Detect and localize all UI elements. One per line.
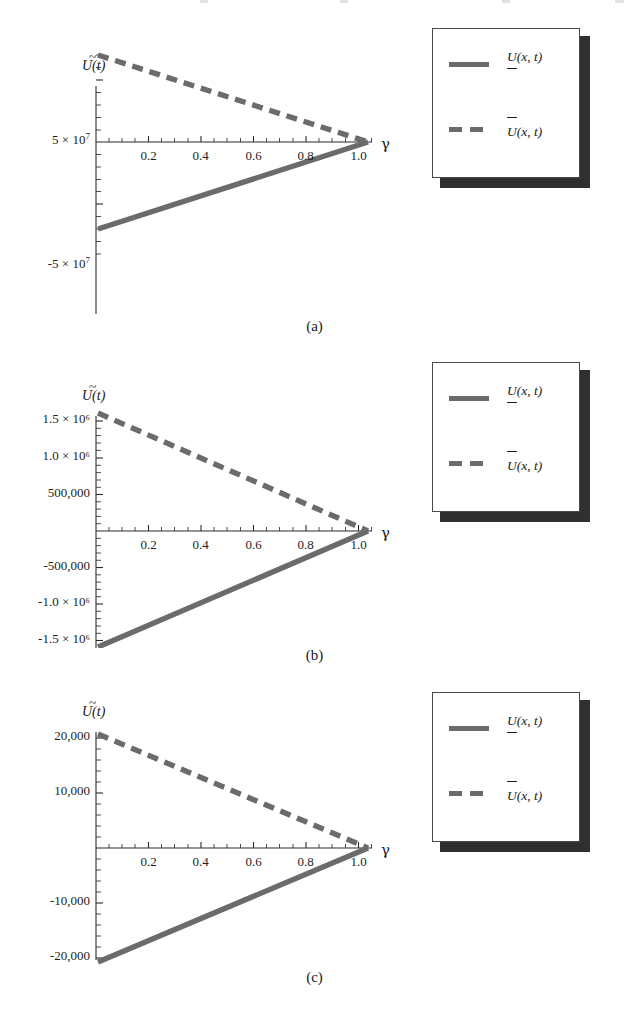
legend-row-solid: U(x, t) xyxy=(433,49,579,89)
y-tick-exponent: 7 xyxy=(85,255,90,265)
underline-accent xyxy=(507,68,517,69)
x-tick-label-a-2: 0.6 xyxy=(233,148,274,164)
y-tick-label-b-2: 500,000 xyxy=(0,485,90,501)
y-tick-label-a-1: -5 × 107 xyxy=(0,256,90,272)
x-axis-label-b: γ xyxy=(381,524,390,542)
panel-c: ~U(t) γ 20,000 10,000 -10,000 -20,000 0.… xyxy=(0,690,629,1010)
x-tick-label-c-1: 0.4 xyxy=(180,854,221,870)
scan-artifact xyxy=(340,0,348,3)
scan-artifact xyxy=(615,0,624,3)
x-major-ticks xyxy=(149,136,359,142)
legend-panel: U(x, t) U(x, t) xyxy=(432,692,580,842)
y-tick-mantissa: -5 × 10 xyxy=(48,256,86,271)
overline-accent xyxy=(507,451,517,452)
x-major-ticks xyxy=(149,525,359,531)
legend-c: U(x, t) U(x, t) xyxy=(432,692,582,844)
x-tick-label-b-4: 1.0 xyxy=(338,537,379,553)
legend-swatch-dashed-line xyxy=(449,791,489,796)
y-axis-label-b: ~U(t) xyxy=(82,388,105,404)
legend-label-upper: U(x, t) xyxy=(507,458,542,474)
y-tick-label-b-0: 1.5 × 10⁶ xyxy=(0,411,90,427)
legend-row-dashed: U(x, t) xyxy=(433,114,579,154)
legend-row-solid: U(x, t) xyxy=(433,713,579,753)
x-tick-label-a-0: 0.2 xyxy=(128,148,169,164)
plot-area-b: ~U(t) γ 1.5 × 10⁶ 1.0 × 10⁶ 500,000 -500… xyxy=(0,358,420,648)
figure-page: ~U(t) γ 5 × 107 -5 × 107 0.2 0.4 0.6 0.8… xyxy=(0,0,629,1021)
y-tick-label-c-1: 10,000 xyxy=(0,783,90,799)
legend-label-upper-text: U(x, t) xyxy=(507,124,542,139)
series-upper-dashed xyxy=(98,55,368,142)
y-tick-label-b-3: -500,000 xyxy=(0,558,90,574)
legend-a: U(x, t) U(x, t) xyxy=(432,28,582,180)
legend-swatch-solid-line xyxy=(449,62,489,67)
legend-swatch-dashed-line xyxy=(449,127,489,132)
x-tick-label-c-4: 1.0 xyxy=(338,854,379,870)
x-tick-label-a-1: 0.4 xyxy=(180,148,221,164)
x-tick-label-c-2: 0.6 xyxy=(233,854,274,870)
legend-row-solid: U(x, t) xyxy=(433,383,579,423)
legend-swatch-dashed-line xyxy=(449,461,489,466)
panel-caption-a: (a) xyxy=(0,318,629,335)
legend-label-upper: U(x, t) xyxy=(507,788,542,804)
x-axis-label-c: γ xyxy=(381,841,390,859)
caption-text: (c) xyxy=(306,969,323,986)
y-tick-mantissa: 5 × 10 xyxy=(52,132,85,147)
panel-a: ~U(t) γ 5 × 107 -5 × 107 0.2 0.4 0.6 0.8… xyxy=(0,24,629,334)
y-tick-label-a-0: 5 × 107 xyxy=(0,132,90,148)
tilde-accent: ~ xyxy=(82,696,103,709)
legend-label-lower-text: U(x, t) xyxy=(507,713,542,728)
y-minor-ticks xyxy=(96,55,101,254)
x-tick-label-b-0: 0.2 xyxy=(128,537,169,553)
y-tick-label-c-2: -10,000 xyxy=(0,893,90,909)
legend-label-lower: U(x, t) xyxy=(507,383,542,399)
scan-artifact xyxy=(200,0,208,3)
panel-caption-b: (b) xyxy=(0,647,629,664)
underline-accent xyxy=(507,732,517,733)
plot-area-a: ~U(t) γ 5 × 107 -5 × 107 0.2 0.4 0.6 0.8… xyxy=(0,24,420,314)
legend-panel: U(x, t) U(x, t) xyxy=(432,362,580,512)
x-tick-label-b-3: 0.8 xyxy=(285,537,326,553)
legend-label-upper-text: U(x, t) xyxy=(507,458,542,473)
underline-accent xyxy=(507,402,517,403)
x-tick-label-c-0: 0.2 xyxy=(128,854,169,870)
series-upper-dashed xyxy=(98,413,368,531)
y-axis-label-a: ~U(t) xyxy=(82,58,105,74)
tilde-accent: ~ xyxy=(82,50,103,63)
x-major-ticks xyxy=(149,842,359,848)
x-tick-label-b-2: 0.6 xyxy=(233,537,274,553)
plot-area-c: ~U(t) γ 20,000 10,000 -10,000 -20,000 0.… xyxy=(0,690,420,980)
legend-row-dashed: U(x, t) xyxy=(433,778,579,818)
legend-label-lower-text: U(x, t) xyxy=(507,49,542,64)
legend-b: U(x, t) U(x, t) xyxy=(432,362,582,514)
y-axis-label-c: ~U(t) xyxy=(82,704,105,720)
caption-text: (a) xyxy=(306,318,323,335)
x-tick-label-a-3: 0.8 xyxy=(285,148,326,164)
legend-label-upper: U(x, t) xyxy=(507,124,542,140)
legend-label-upper-text: U(x, t) xyxy=(507,788,542,803)
y-tick-exponent: 7 xyxy=(85,131,90,141)
series-upper-dashed xyxy=(98,734,368,848)
y-tick-label-c-0: 20,000 xyxy=(0,728,90,744)
legend-label-lower: U(x, t) xyxy=(507,49,542,65)
y-tick-label-c-3: -20,000 xyxy=(0,948,90,964)
panel-caption-c: (c) xyxy=(0,969,629,986)
legend-label-lower-text: U(x, t) xyxy=(507,383,542,398)
legend-panel: U(x, t) U(x, t) xyxy=(432,28,580,178)
y-tick-label-b-5: -1.5 × 10⁶ xyxy=(0,631,90,647)
legend-swatch-solid-line xyxy=(449,396,489,401)
scan-artifact xyxy=(502,0,510,3)
panel-b: ~U(t) γ 1.5 × 10⁶ 1.0 × 10⁶ 500,000 -500… xyxy=(0,358,629,668)
overline-accent xyxy=(507,117,517,118)
y-tick-label-b-4: -1.0 × 10⁶ xyxy=(0,594,90,610)
y-tick-label-b-1: 1.0 × 10⁶ xyxy=(0,448,90,464)
legend-row-dashed: U(x, t) xyxy=(433,448,579,488)
x-axis-label-a: γ xyxy=(381,135,390,153)
x-tick-label-a-4: 1.0 xyxy=(338,148,379,164)
overline-accent xyxy=(507,781,517,782)
x-tick-label-c-3: 0.8 xyxy=(285,854,326,870)
x-tick-label-b-1: 0.4 xyxy=(180,537,221,553)
caption-text: (b) xyxy=(306,647,324,664)
legend-label-lower: U(x, t) xyxy=(507,713,542,729)
legend-swatch-solid-line xyxy=(449,726,489,731)
tilde-accent: ~ xyxy=(82,380,103,393)
